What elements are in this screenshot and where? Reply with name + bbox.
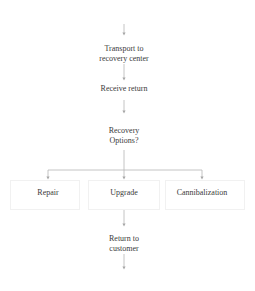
node-return: Return to customer — [109, 234, 139, 254]
node-receive: Receive return — [101, 84, 148, 94]
node-receive-label: Receive return — [101, 84, 148, 94]
node-decision-line1: Recovery — [109, 126, 140, 136]
node-repair-label: Repair — [37, 188, 58, 198]
node-upgrade-label: Upgrade — [110, 188, 138, 198]
node-decision-line2: Options? — [109, 136, 140, 146]
node-cannibalization: Cannibalization — [177, 188, 228, 198]
node-return-line1: Return to — [109, 234, 139, 244]
node-transport: Transport to recovery center — [99, 44, 149, 64]
node-upgrade: Upgrade — [110, 188, 138, 198]
node-cannibalization-label: Cannibalization — [177, 188, 228, 198]
node-transport-line2: recovery center — [99, 54, 149, 64]
node-repair: Repair — [37, 188, 58, 198]
node-transport-line1: Transport to — [99, 44, 149, 54]
node-return-line2: customer — [109, 244, 139, 254]
node-decision: Recovery Options? — [109, 126, 140, 146]
